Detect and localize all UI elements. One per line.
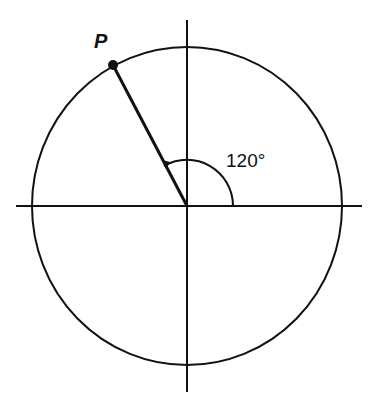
- radius-to-p: [113, 65, 187, 206]
- point-p: [108, 60, 118, 70]
- angle-label: 120°: [226, 150, 265, 172]
- point-p-label: P: [94, 30, 107, 53]
- unit-circle-diagram: [0, 0, 378, 405]
